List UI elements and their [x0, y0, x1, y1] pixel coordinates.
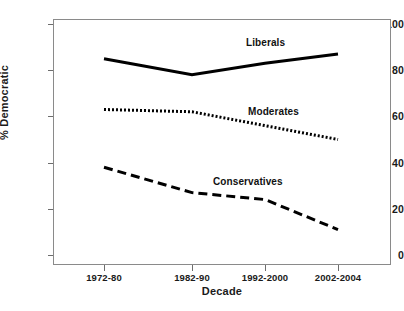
x-tick-label-1982-90: 1982-90: [174, 272, 210, 283]
y-axis-label: % Democratic: [0, 65, 10, 140]
x-tick-mark-3: [265, 265, 266, 271]
x-tick-mark-4: [338, 265, 339, 271]
chart-figure: % Democratic 100 80 60 40 20 0 1972-80 1…: [0, 0, 404, 311]
series-annotation-moderates: Moderates: [247, 106, 300, 117]
x-tick-label-2002-2004: 2002-2004: [315, 272, 361, 283]
x-tick-mark-2: [192, 265, 193, 271]
plot-area: [53, 19, 391, 265]
x-tick-label-1972-80: 1972-80: [86, 272, 122, 283]
series-annotation-liberals: Liberals: [245, 37, 286, 48]
x-tick-label-1992-2000: 1992-2000: [242, 272, 288, 283]
x-axis-label: Decade: [202, 285, 242, 297]
x-tick-mark-1: [104, 265, 105, 271]
series-annotation-conservatives: Conservatives: [212, 176, 284, 187]
